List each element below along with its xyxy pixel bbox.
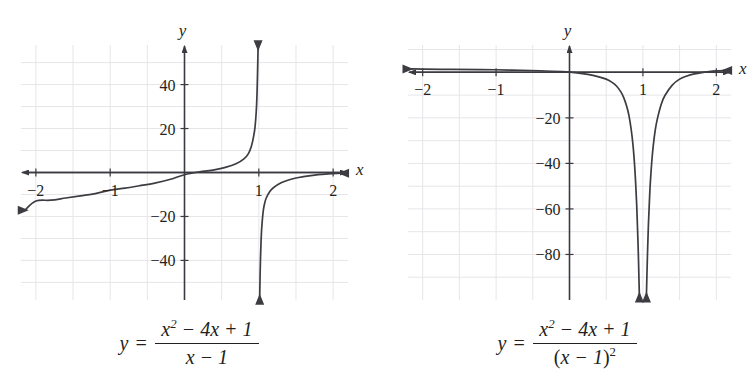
x-tick-label: −1 (102, 182, 119, 199)
x-tick-label: 1 (255, 182, 263, 199)
y-tick-label: −60 (535, 201, 560, 218)
caption-left: y = x2 − 4x + 1 x − 1 (0, 312, 378, 383)
equation-left-lhs: y = (119, 332, 148, 355)
x-tick-label: 1 (639, 81, 647, 98)
curve-arrows (402, 64, 732, 302)
fraction-left: x2 − 4x + 1 x − 1 (155, 318, 258, 369)
fraction-right-numerator: x2 − 4x + 1 (533, 318, 636, 343)
axes (409, 46, 730, 300)
curve-arrow-head-icon (338, 169, 349, 178)
y-tick-label: −80 (535, 246, 560, 263)
figure-page: −40−202040−2−112xy y = x2 − 4x + 1 x − 1… (0, 0, 756, 383)
fraction-right: x2 − 4x + 1 (x − 1)2 (533, 318, 636, 369)
x-tick-label: 2 (712, 81, 720, 98)
tick-labels: −80−60−40−20−2−112 (414, 81, 720, 263)
x-tick-label: −2 (27, 182, 44, 199)
fraction-left-denominator: x − 1 (180, 344, 234, 369)
curve-group (409, 69, 725, 296)
chart-left-svg: −40−202040−2−112xy (0, 0, 378, 312)
fraction-right-denominator: (x − 1)2 (548, 344, 622, 369)
curve-arrow-head-icon (254, 40, 263, 51)
x-tick-label: −1 (488, 81, 505, 98)
x-tick-label: −2 (414, 81, 431, 98)
curve-arrow-head-icon (255, 294, 264, 305)
plot-left: −40−202040−2−112xy (0, 0, 378, 312)
curve-right-branch (646, 71, 725, 296)
curve-left-branch (409, 69, 639, 296)
figure-right: −80−60−40−20−2−112xy y = x2 − 4x + 1 (x … (378, 0, 756, 383)
y-axis-label: y (177, 21, 187, 40)
fraction-left-numerator: x2 − 4x + 1 (155, 318, 258, 343)
caption-right: y = x2 − 4x + 1 (x − 1)2 (378, 312, 756, 383)
x-axis-label: x (355, 160, 364, 179)
y-tick-label: −20 (150, 208, 175, 225)
y-tick-label: −40 (150, 252, 175, 269)
equation-right-lhs: y = (497, 332, 526, 355)
x-tick-label: 2 (329, 182, 337, 199)
equation-right: y = x2 − 4x + 1 (x − 1)2 (497, 318, 636, 369)
y-tick-label: −40 (535, 155, 560, 172)
plot-right: −80−60−40−20−2−112xy (378, 0, 756, 312)
y-tick-label: 20 (160, 121, 176, 138)
figure-left: −40−202040−2−112xy y = x2 − 4x + 1 x − 1 (0, 0, 378, 383)
x-axis-label: x (738, 59, 747, 78)
y-axis-label: y (562, 21, 572, 40)
equation-left: y = x2 − 4x + 1 x − 1 (119, 318, 258, 369)
chart-right-svg: −80−60−40−20−2−112xy (378, 0, 756, 312)
curve-arrow-head-icon (721, 66, 732, 75)
y-tick-label: 40 (160, 77, 176, 94)
y-tick-label: −20 (535, 110, 560, 127)
